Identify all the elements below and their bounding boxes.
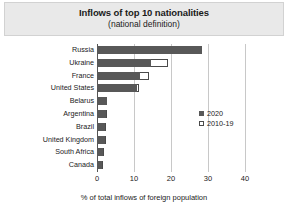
category-label: South Africa — [0, 146, 94, 159]
bar-2020 — [97, 46, 202, 54]
legend-item[interactable]: 2010-19 — [199, 118, 233, 128]
legend-item[interactable]: 2020 — [199, 108, 233, 118]
category-label: United States — [0, 82, 94, 95]
x-tick-label: 40 — [232, 174, 258, 183]
chart-subtitle: (national definition) — [5, 19, 283, 30]
page-title: Inflows of top 10 nationalities — [5, 7, 283, 18]
bar-2020 — [97, 161, 102, 169]
bar-2020 — [97, 72, 140, 80]
legend-swatch-icon — [199, 111, 204, 116]
gridline — [245, 44, 246, 172]
bar-row — [97, 70, 245, 83]
bar-row — [97, 44, 245, 57]
bar-2020 — [97, 123, 105, 131]
category-label: France — [0, 70, 94, 83]
category-label: Russia — [0, 44, 94, 57]
x-tick-label: 20 — [158, 174, 184, 183]
bar-row — [97, 95, 245, 108]
chart-figure: Inflows of top 10 nationalities (nationa… — [0, 0, 288, 215]
bar-2020 — [97, 110, 106, 118]
bar-row — [97, 159, 245, 172]
x-tick-label: 30 — [195, 174, 221, 183]
x-tick-label: 10 — [121, 174, 147, 183]
x-tick-label: 0 — [84, 174, 110, 183]
bar-2020 — [97, 84, 137, 92]
bar-2020 — [97, 97, 107, 105]
category-label: Ukraine — [0, 57, 94, 70]
category-axis-labels: RussiaUkraineFranceUnited StatesBelarusA… — [0, 44, 94, 172]
x-axis-tick-labels: 010203040 — [0, 174, 288, 186]
bar-row — [97, 146, 245, 159]
chart-legend: 20202010-19 — [199, 108, 233, 128]
bar-2020 — [97, 136, 105, 144]
chart-title-band: Inflows of top 10 nationalities (nationa… — [4, 2, 284, 36]
category-label: Argentina — [0, 108, 94, 121]
category-label: Canada — [0, 159, 94, 172]
category-label: Belarus — [0, 95, 94, 108]
bar-row — [97, 82, 245, 95]
legend-label: 2010-19 — [207, 119, 233, 128]
bar-row — [97, 57, 245, 70]
bar-2020 — [97, 59, 151, 67]
legend-swatch-icon — [199, 121, 204, 126]
category-label: Brazil — [0, 121, 94, 134]
x-axis-label: % of total inflows of foreign population — [0, 193, 288, 202]
category-label: United Kingdom — [0, 134, 94, 147]
legend-label: 2020 — [207, 109, 223, 118]
bar-row — [97, 134, 245, 147]
bar-2020 — [97, 148, 103, 156]
